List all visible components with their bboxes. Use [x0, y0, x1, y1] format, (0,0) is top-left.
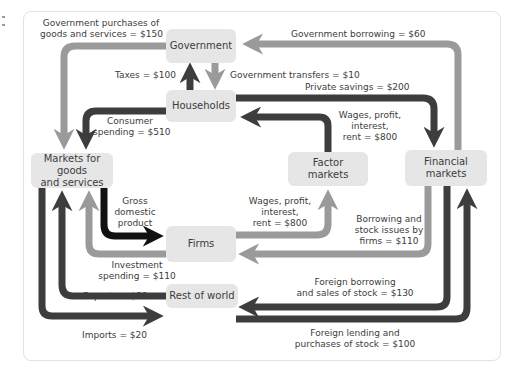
node-factor-markets: Factor markets — [288, 152, 368, 186]
node-government: Government — [166, 29, 236, 63]
label-consumer-spending: Consumer spending = $510 — [93, 116, 167, 138]
node-financial-markets: Financial markets — [405, 150, 487, 186]
node-factor-label-1: Factor — [308, 157, 349, 169]
node-firms-label: Firms — [188, 238, 215, 250]
node-households: Households — [166, 90, 236, 122]
label-gov-transfers: Government transfers = $10 — [230, 70, 360, 81]
node-markets-goods-services: Markets for goods and services — [31, 153, 113, 188]
label-investment: Investment spending = $110 — [98, 260, 176, 282]
node-factor-label-2: markets — [308, 169, 349, 181]
label-imports: Imports = $20 — [82, 330, 147, 341]
label-taxes: Taxes = $100 — [115, 70, 176, 81]
node-households-label: Households — [172, 100, 230, 112]
node-government-label: Government — [170, 40, 232, 52]
label-wages-firms: Wages, profit, interest, rent = $800 — [246, 196, 314, 229]
node-financial-label-1: Financial — [424, 156, 468, 168]
node-financial-label-2: markets — [424, 168, 468, 180]
label-gdp: Gross domestic product — [114, 196, 156, 229]
node-rest-of-world-label: Rest of world — [169, 290, 234, 302]
label-foreign-borrowing: Foreign borrowing and sales of stock = $… — [290, 277, 420, 299]
label-exports: Exports = $50 — [83, 291, 148, 302]
node-markets-label-1: Markets for goods — [31, 153, 113, 177]
label-private-savings: Private savings = $200 — [305, 82, 410, 93]
label-wages-households: Wages, profit, interest, rent = $800 — [336, 110, 404, 143]
node-firms: Firms — [166, 226, 236, 262]
node-markets-label-2: and services — [31, 177, 113, 189]
node-rest-of-world: Rest of world — [166, 284, 238, 308]
label-foreign-lending: Foreign lending and purchases of stock =… — [290, 328, 420, 350]
label-gov-purchases: Government purchases of goods and servic… — [40, 18, 162, 40]
label-gov-borrowing: Government borrowing = $60 — [291, 29, 425, 40]
flow-wages-households — [250, 117, 328, 152]
label-borrowing-firms: Borrowing and stock issues by firms = $1… — [354, 214, 424, 247]
